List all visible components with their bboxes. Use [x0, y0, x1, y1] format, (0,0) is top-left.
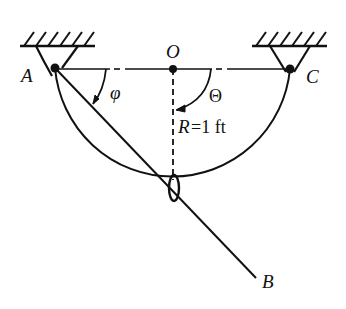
label-a: A: [19, 65, 33, 86]
label-radius-value: =1 ft: [191, 117, 226, 137]
label-c: C: [306, 66, 319, 87]
pivot-a-icon: [51, 64, 60, 73]
label-b: B: [262, 271, 274, 292]
pivot-c-icon: [286, 65, 295, 74]
angle-theta-arc: [176, 69, 211, 112]
label-phi: φ: [110, 82, 121, 103]
label-radius-symbol: R: [177, 116, 190, 137]
center-o-icon: [169, 65, 177, 73]
label-theta: Θ: [209, 86, 222, 106]
rod-ab: [55, 68, 256, 278]
angle-phi-arc: [93, 69, 106, 104]
mechanism-diagram: A O C B φ Θ R =1 ft: [0, 0, 346, 309]
label-o: O: [166, 41, 180, 62]
